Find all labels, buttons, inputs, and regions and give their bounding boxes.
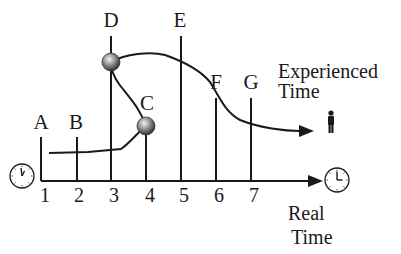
sphere-icon [137, 117, 155, 135]
event-label-c: C [140, 91, 154, 115]
tick-label-4: 4 [145, 184, 155, 206]
experienced-time-label-line2: Time [278, 80, 320, 102]
event-label-e: E [174, 8, 187, 32]
real-time-label-line2: Time [291, 226, 333, 248]
person-icon [328, 110, 334, 133]
time-perception-diagram: A B C D E F G 1 2 3 4 5 6 7 Experienced … [0, 0, 401, 254]
experienced-time-curve [49, 53, 300, 153]
tick-label-1: 1 [40, 184, 50, 206]
tick-label-3: 3 [109, 184, 119, 206]
real-time-axis-arrowhead [308, 175, 323, 187]
clock-icon [325, 168, 349, 192]
experienced-time-arrowhead [299, 125, 314, 137]
tick-label-6: 6 [214, 184, 224, 206]
tick-label-2: 2 [74, 184, 84, 206]
event-label-g: G [243, 70, 258, 94]
clock-icon [10, 164, 34, 188]
tick-label-7: 7 [249, 184, 259, 206]
real-time-label-line1: Real [288, 202, 325, 224]
event-label-f: F [210, 70, 222, 94]
sphere-icon [102, 53, 120, 71]
event-label-b: B [69, 110, 83, 134]
tick-label-5: 5 [179, 184, 189, 206]
event-label-a: A [33, 110, 49, 134]
event-label-d: D [103, 8, 118, 32]
